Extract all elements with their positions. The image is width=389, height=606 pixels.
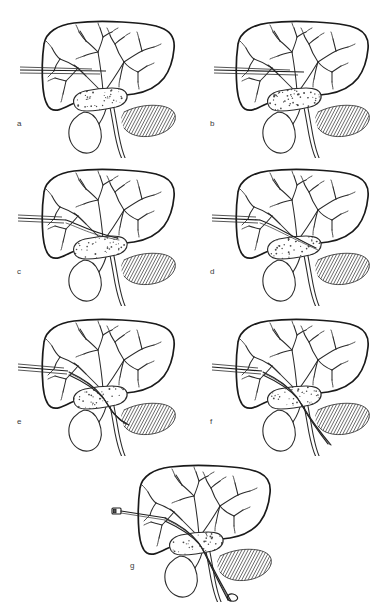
hilar-tumour [268,385,324,412]
panel-label-e: e [17,418,21,426]
figure-sheet: abcdefg [0,0,389,606]
hilar-tumour [266,86,325,113]
panel-d [208,156,383,306]
panel-f-artwork [208,306,383,456]
panel-c [14,156,189,306]
panel-f [208,306,383,456]
panel-a-artwork [14,8,189,158]
panel-c-artwork [14,156,189,306]
hilar-tumour [71,384,129,411]
panel-a [14,8,189,158]
instrument-wire [18,215,119,240]
panel-g-artwork [110,452,285,602]
hilar-tumour [168,531,227,557]
panel-label-d: d [210,268,214,276]
panel-label-f: f [210,418,212,426]
panel-g [110,452,285,602]
panel-d-artwork [208,156,383,306]
panel-b-artwork [208,8,383,158]
instrument-catheter-hub [112,508,238,601]
instrument-needle [20,67,106,74]
panel-e [14,306,189,456]
panel-label-a: a [17,120,21,128]
instrument-needle [214,67,304,75]
panel-label-b: b [210,120,214,128]
panel-b [208,8,383,158]
panel-label-c: c [17,268,21,276]
panel-label-g: g [130,562,134,570]
hilar-tumour [72,88,130,114]
hilar-tumour [72,234,131,261]
panel-e-artwork [14,306,189,456]
